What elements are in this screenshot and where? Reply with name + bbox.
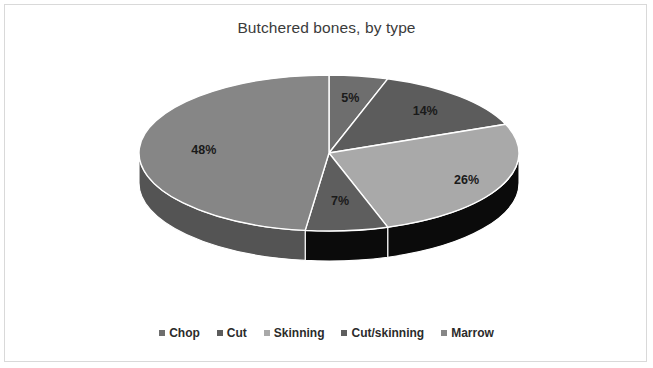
- legend-label: Skinning: [274, 326, 325, 340]
- pie-label-cut-skinning: 7%: [331, 194, 349, 208]
- legend-swatch-icon: [264, 330, 270, 336]
- legend-item-cut-skinning[interactable]: Cut/skinning: [341, 326, 424, 340]
- legend-swatch-icon: [217, 330, 223, 336]
- legend-item-cut[interactable]: Cut: [217, 326, 247, 340]
- pie-label-cut: 14%: [413, 104, 438, 118]
- pie-label-chop: 5%: [341, 91, 359, 105]
- pie-label-marrow: 48%: [191, 143, 216, 157]
- legend-label: Cut/skinning: [351, 326, 424, 340]
- pie-label-skinning: 26%: [454, 173, 479, 187]
- legend-label: Marrow: [451, 326, 494, 340]
- legend-swatch-icon: [341, 330, 347, 336]
- legend-item-chop[interactable]: Chop: [159, 326, 200, 340]
- chart-frame: Butchered bones, by type 5%14%26%7%48% C…: [4, 4, 647, 362]
- legend-label: Chop: [169, 326, 200, 340]
- pie-side-cut-skinning: [305, 227, 388, 261]
- legend-item-skinning[interactable]: Skinning: [264, 326, 325, 340]
- pie-chart-svg[interactable]: 5%14%26%7%48%: [5, 39, 648, 289]
- legend-swatch-icon: [441, 330, 447, 336]
- legend-label: Cut: [227, 326, 247, 340]
- pie-chart-area[interactable]: 5%14%26%7%48%: [5, 39, 648, 289]
- legend-swatch-icon: [159, 330, 165, 336]
- chart-legend[interactable]: ChopCutSkinningCut/skinningMarrow: [5, 321, 648, 345]
- legend-item-marrow[interactable]: Marrow: [441, 326, 494, 340]
- chart-title: Butchered bones, by type: [5, 19, 648, 37]
